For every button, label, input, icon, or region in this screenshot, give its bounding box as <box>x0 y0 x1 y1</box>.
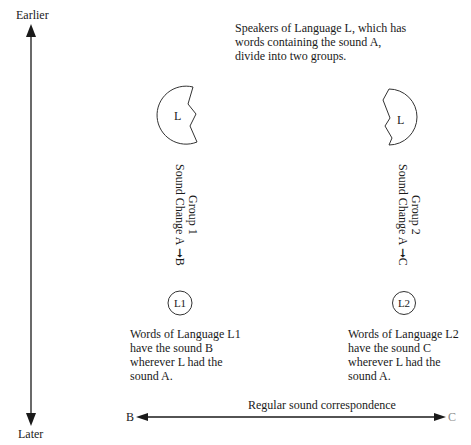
daughter-label-l1: L1 <box>174 297 186 309</box>
arrowhead-down-icon <box>26 413 36 426</box>
correspondence-left-end: B <box>126 410 134 424</box>
sound-change-text: Sound Change A <box>173 164 187 245</box>
parent-label-left: L <box>174 109 181 123</box>
sound-change-text: Sound Change A <box>396 164 410 245</box>
sound-change-line: Sound Change A ➞C <box>396 164 409 266</box>
correspondence-label: Regular sound correspondence <box>248 398 396 412</box>
arrowhead-up-icon <box>26 24 36 37</box>
group-name: Group 2 <box>409 164 422 266</box>
arrow-right-icon: ➞ <box>173 248 187 258</box>
correspondence-arrow <box>136 413 446 421</box>
intro-text: Speakers of Language L, which has words … <box>235 21 406 63</box>
timeline-arrow <box>26 24 36 426</box>
parent-label-right: L <box>397 113 404 127</box>
description-line: Words of Language L2 <box>348 327 459 341</box>
group-1-description: Words of Language L1 have the sound B wh… <box>130 327 241 383</box>
correspondence-right-end: C <box>448 410 456 424</box>
intro-line: Speakers of Language L, which has <box>235 21 406 35</box>
intro-line: words containing the sound A, <box>235 35 406 49</box>
description-line: Words of Language L1 <box>130 327 241 341</box>
description-line: wherever L had the <box>130 355 241 369</box>
target-sound: B <box>173 258 187 266</box>
sound-change-line: Sound Change A ➞B <box>173 164 186 266</box>
daughter-label-l2: L2 <box>398 297 410 309</box>
group-name: Group 1 <box>186 164 199 266</box>
arrow-right-icon: ➞ <box>396 248 410 258</box>
description-line: sound A. <box>348 369 459 383</box>
target-sound: C <box>396 258 410 266</box>
group-2-sound-change: Group 2 Sound Change A ➞C <box>396 164 422 266</box>
earlier-label: Earlier <box>16 8 49 22</box>
arrowhead-left-icon <box>136 413 148 421</box>
description-line: sound A. <box>130 369 241 383</box>
description-line: have the sound C <box>348 341 459 355</box>
intro-line: divide into two groups. <box>235 49 406 63</box>
later-label: Later <box>18 427 43 441</box>
description-line: wherever L had the <box>348 355 459 369</box>
description-line: have the sound B <box>130 341 241 355</box>
group-2-description: Words of Language L2 have the sound C wh… <box>348 327 459 383</box>
arrowhead-right-icon <box>434 413 446 421</box>
group-1-sound-change: Group 1 Sound Change A ➞B <box>173 164 199 266</box>
